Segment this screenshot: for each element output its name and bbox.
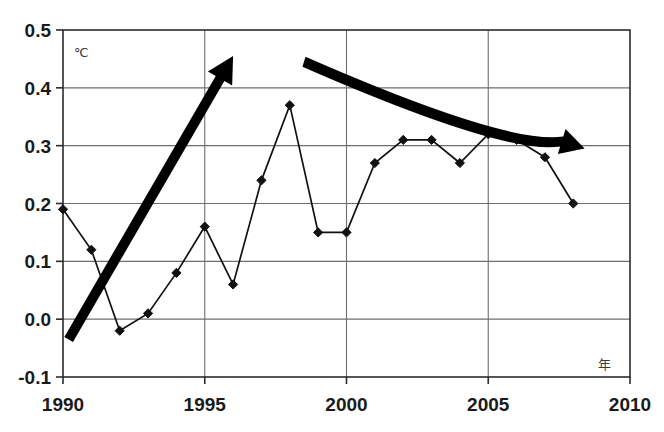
y-tick-label: 0.1 [25,251,52,272]
x-tick-label: 1990 [42,394,84,415]
y-axis-unit-label: ℃ [74,45,89,60]
x-tick-label: 2005 [467,394,510,415]
x-tick-label: 1995 [184,394,227,415]
y-tick-label: 0.4 [25,78,52,99]
y-tick-label: 0.5 [25,20,52,41]
chart-background [0,0,664,432]
y-tick-label: 0.2 [25,194,51,215]
temperature-anomaly-line-chart: -0.10.00.10.20.30.40.5 19901995200020052… [0,0,664,432]
chart-page: -0.10.00.10.20.30.40.5 19901995200020052… [0,0,664,432]
x-axis-unit-label: 年 [598,357,611,372]
x-tick-label: 2010 [609,394,651,415]
y-tick-label: -0.1 [18,367,51,388]
y-tick-label: 0.3 [25,136,51,157]
y-tick-label: 0.0 [25,309,51,330]
x-tick-label: 2000 [325,394,367,415]
